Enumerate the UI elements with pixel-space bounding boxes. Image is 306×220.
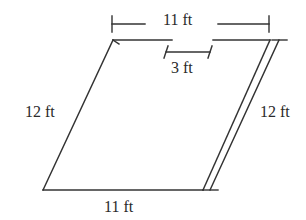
right-dimension-label: 12 ft xyxy=(260,104,290,120)
offset-label: 3 ft xyxy=(171,60,193,76)
parallelogram-diagram: 11 ft 3 ft 12 ft 12 ft 11 ft xyxy=(0,0,306,220)
left-side-label: 12 ft xyxy=(25,104,55,120)
top-base-label: 11 ft xyxy=(163,12,192,28)
bottom-base-label: 11 ft xyxy=(104,199,133,215)
